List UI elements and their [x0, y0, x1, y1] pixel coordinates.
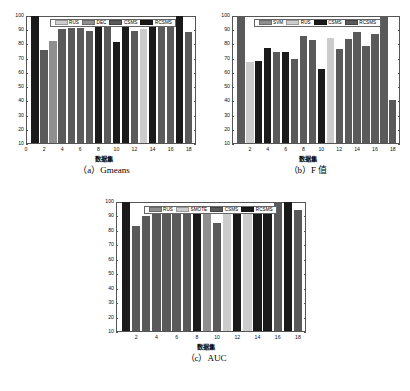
y-tick-mark [398, 130, 400, 131]
y-tick-mark [304, 202, 306, 203]
legend-swatch-icon [210, 207, 223, 212]
x-tick-label: 16 [372, 147, 378, 152]
bar [122, 202, 130, 331]
legend-item: RUS [149, 207, 173, 212]
x-tick-label: 2 [43, 147, 46, 152]
y-tick-mark [232, 87, 234, 88]
x-tick-label: 0 [25, 147, 28, 152]
y-tick-mark [194, 87, 196, 88]
bar [243, 210, 251, 331]
legend-item: RCSMS [140, 20, 171, 25]
bar [58, 29, 65, 143]
bar [140, 29, 147, 143]
bar [172, 207, 180, 332]
y-tick-label: 60 [108, 257, 114, 262]
bar [142, 216, 150, 331]
y-tick-mark [194, 130, 196, 131]
y-tick-mark [304, 216, 306, 217]
x-tick-label: 8 [195, 335, 198, 340]
x-tick-label: 4 [155, 335, 158, 340]
y-tick-mark [26, 44, 28, 45]
bar [185, 32, 192, 143]
bar [282, 52, 289, 143]
bar [95, 26, 102, 143]
y-tick-mark [194, 59, 196, 60]
bar [389, 100, 396, 143]
bar [246, 62, 253, 144]
y-tick-label: 70 [18, 56, 24, 61]
y-tick-mark [26, 30, 28, 31]
bar [193, 209, 201, 331]
bar [183, 211, 191, 331]
y-tick-mark [26, 101, 28, 102]
bar [237, 16, 244, 143]
y-tick-mark [194, 16, 196, 17]
bar [294, 210, 302, 331]
bar [255, 61, 262, 143]
legend-item: RCSMS [241, 207, 272, 212]
x-tick-label: 8 [302, 147, 305, 152]
y-tick-mark [26, 73, 28, 74]
bar [291, 59, 298, 143]
legend-label: RCSMS [359, 20, 376, 25]
x-tick-label: 14 [150, 147, 156, 152]
legend-swatch-icon [286, 20, 299, 25]
legend-label: SVM [273, 20, 283, 25]
chart-panel-fscore: F-score102030405060708090100246810121416… [208, 6, 408, 188]
y-tick-label: 80 [108, 228, 114, 233]
bar [132, 226, 140, 331]
chart-legend: RUSSMOTECSMSRCSMS [144, 206, 277, 214]
legend-item: CSMS [109, 20, 137, 25]
panel-caption: （a）Gmeans [4, 163, 204, 176]
bar [31, 16, 38, 143]
bar [49, 41, 56, 143]
y-tick-mark [116, 274, 118, 275]
y-tick-label: 90 [108, 214, 114, 219]
y-tick-mark [398, 116, 400, 117]
bar [86, 31, 93, 143]
chart-legend: SVMRUSCSMSRCSMS [254, 19, 381, 27]
bar [213, 223, 221, 331]
y-tick-mark [232, 30, 234, 31]
bar [253, 207, 261, 332]
legend-swatch-icon [149, 207, 162, 212]
y-tick-mark [304, 245, 306, 246]
legend-label: DEC [97, 20, 107, 25]
x-tick-label: 18 [390, 147, 396, 152]
y-tick-mark [232, 59, 234, 60]
x-tick-label: 2 [135, 335, 138, 340]
legend-swatch-icon [55, 20, 68, 25]
y-tick-mark [232, 101, 234, 102]
panel-caption: （c）AUC [90, 351, 322, 364]
y-tick-mark [116, 245, 118, 246]
bar [362, 46, 369, 143]
y-tick-mark [398, 16, 400, 17]
x-tick-label: 10 [318, 147, 324, 152]
panel-caption: （b）F 值 [208, 163, 408, 176]
y-tick-mark [304, 260, 306, 261]
legend-label: RUS [69, 20, 79, 25]
bar [203, 208, 211, 331]
bar [327, 38, 334, 143]
y-tick-mark [304, 231, 306, 232]
bar [264, 48, 271, 143]
bar [300, 36, 307, 143]
x-tick-label: 6 [175, 335, 178, 340]
y-tick-label: 10 [224, 141, 230, 146]
legend-label: RCSMS [256, 207, 273, 212]
x-tick-label: 4 [61, 147, 64, 152]
bar [233, 214, 241, 331]
legend-swatch-icon [176, 207, 189, 212]
legend-swatch-icon [109, 20, 122, 25]
y-tick-label: 50 [108, 272, 114, 277]
y-tick-mark [26, 130, 28, 131]
y-tick-mark [194, 116, 196, 117]
y-tick-label: 80 [224, 42, 230, 47]
legend-item: SMOTE [176, 207, 207, 212]
y-tick-mark [304, 303, 306, 304]
x-tick-label: 10 [114, 147, 120, 152]
legend-item: CSMS [210, 207, 238, 212]
legend-swatch-icon [82, 20, 95, 25]
legend-label: RUS [163, 207, 173, 212]
y-tick-mark [232, 144, 234, 145]
